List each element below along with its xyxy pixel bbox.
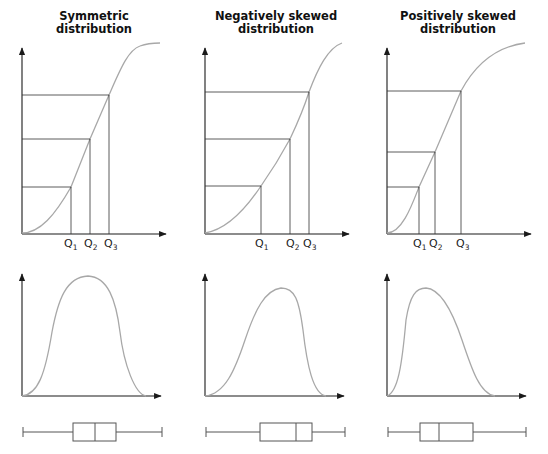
q3-label: Q3 <box>104 237 118 252</box>
quartile-guides <box>387 91 461 234</box>
q2-label: Q2 <box>286 237 300 252</box>
freq-negative <box>205 274 344 396</box>
freq-positive <box>387 274 526 396</box>
q2-label: Q2 <box>429 237 443 252</box>
iqr-box <box>420 423 473 441</box>
cumulative-curve <box>22 43 160 233</box>
boxplot-symmetric <box>23 423 162 441</box>
freq-symmetric <box>22 274 161 396</box>
frequency-curve <box>205 288 326 396</box>
q1-label: Q1 <box>255 237 269 252</box>
iqr-box <box>260 423 312 441</box>
frequency-curve <box>387 288 495 396</box>
q1-label: Q1 <box>413 237 427 252</box>
q3-label: Q3 <box>456 237 470 252</box>
cumulative-curve <box>387 43 525 233</box>
q1-label: Q1 <box>64 237 78 252</box>
cumulative-curve <box>205 43 342 233</box>
boxplot-negative <box>206 423 345 441</box>
ogive-positive: Q1 Q2 Q3 <box>387 43 531 252</box>
ogive-negative: Q1 Q2 Q3 <box>205 43 349 252</box>
quartile-guides <box>205 92 309 234</box>
diagram-canvas: Q1 Q2 Q3 Q1 Q2 Q3 Q1 Q2 Q3 <box>0 0 548 454</box>
quartile-guides <box>22 95 109 234</box>
boxplot-positive <box>388 423 526 441</box>
frequency-curve <box>22 276 146 396</box>
q3-label: Q3 <box>303 237 317 252</box>
ogive-symmetric: Q1 Q2 Q3 <box>22 43 166 252</box>
q2-label: Q2 <box>84 237 98 252</box>
